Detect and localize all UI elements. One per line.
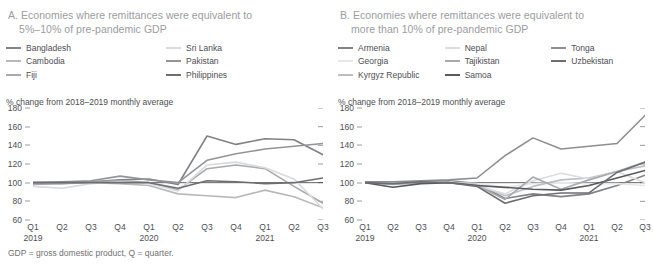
panel-a-y-axis: 1801601401201008060 (0, 108, 32, 220)
legend-item-bangladesh[interactable]: Bangladesh (6, 41, 166, 55)
legend-item-label: Uzbekistan (571, 56, 613, 66)
legend-item-fiji[interactable]: Fiji (6, 68, 166, 82)
panel-b-x-axis: Q12019Q2Q3Q4Q12020Q2Q3Q4Q12021Q2Q3 (365, 220, 645, 250)
footnote: GDP = gross domestic product, Q = quarte… (8, 248, 174, 258)
legend-item-label: Sri Lanka (186, 43, 222, 53)
x-tick-label: Q4 (443, 222, 454, 232)
x-tick-label: Q1 (583, 222, 594, 232)
legend-line-icon (6, 60, 21, 62)
series-line-sri-lanka (33, 162, 323, 209)
y-tick-label: 60 (345, 215, 354, 225)
x-year-label: 2020 (468, 233, 487, 243)
x-tick-label: Q3 (201, 222, 212, 232)
y-tick-mark (25, 201, 30, 202)
legend-panel-a: BangladeshSri LankaCambodiaPakistanFijiP… (6, 41, 326, 82)
y-tick-label: 180 (340, 103, 354, 113)
legend-line-icon (338, 47, 353, 49)
x-year-label: 2020 (140, 233, 159, 243)
panel-b-lines (365, 108, 645, 220)
x-tick-label: Q2 (387, 222, 398, 232)
legend-item-cambodia[interactable]: Cambodia (6, 55, 166, 69)
legend-item-label: Fiji (26, 70, 37, 80)
x-tick-label: Q1 (143, 222, 154, 232)
x-tick-label: Q2 (611, 222, 622, 232)
y-tick-label: 140 (8, 140, 22, 150)
legend-line-icon (338, 60, 353, 62)
y-tick-mark (25, 108, 30, 109)
legend-line-icon (445, 47, 460, 49)
panel-b-title: B. Economies where remittances were equi… (340, 8, 652, 36)
x-tick-label: Q4 (114, 222, 125, 232)
y-tick-mark (25, 145, 30, 146)
legend-item-label: Armenia (358, 43, 390, 53)
x-tick-label: Q2 (56, 222, 67, 232)
legend-item-label: Bangladesh (26, 43, 71, 53)
legend-item-samoa[interactable]: Samoa (445, 68, 552, 82)
y-tick-label: 120 (340, 159, 354, 169)
y-tick-mark (357, 126, 362, 127)
panel-b-title-line2: more than 10% of pre-pandemic GDP (340, 22, 652, 36)
x-tick-label: Q1 (27, 222, 38, 232)
legend-line-icon (166, 47, 181, 49)
y-tick-mark (357, 182, 362, 183)
panel-a-x-axis: Q12019Q2Q3Q4Q12020Q2Q3Q4Q12021Q2Q3 (33, 220, 323, 250)
legend-item-georgia[interactable]: Georgia (338, 55, 445, 69)
legend-line-icon (166, 60, 181, 62)
x-tick-label: Q1 (471, 222, 482, 232)
y-tick-mark (357, 201, 362, 202)
panel-a-title-line2: 5%–10% of pre-pandemic GDP (8, 22, 320, 36)
y-tick-mark (25, 220, 30, 221)
x-tick-label: Q1 (259, 222, 270, 232)
y-tick-mark (25, 126, 30, 127)
legend-line-icon (551, 60, 566, 62)
legend-item-label: Samoa (465, 70, 492, 80)
legend-item-label: Tajikistan (465, 56, 500, 66)
legend-item-label: Georgia (358, 56, 388, 66)
x-tick-label: Q2 (288, 222, 299, 232)
legend-item-label: Tonga (571, 43, 594, 53)
legend-line-icon (445, 74, 460, 76)
y-tick-label: 60 (13, 215, 22, 225)
legend-item-uzbekistan[interactable]: Uzbekistan (551, 55, 653, 69)
legend-item-pakistan[interactable]: Pakistan (166, 55, 326, 69)
y-tick-label: 140 (340, 140, 354, 150)
legend-item-tonga[interactable]: Tonga (551, 41, 653, 55)
legend-item-armenia[interactable]: Armenia (338, 41, 445, 55)
panel-a-title: A. Economies where remittances were equi… (8, 8, 320, 36)
x-tick-label: Q2 (172, 222, 183, 232)
y-tick-label: 80 (345, 196, 354, 206)
x-tick-label: Q3 (639, 222, 650, 232)
legend-item-label: Philippines (186, 70, 227, 80)
legend-item-label: Pakistan (186, 56, 219, 66)
panel-a-axis-note: % change from 2018–2019 monthly average (6, 97, 173, 107)
legend-line-icon (551, 47, 566, 49)
legend-item-kyrgyz-republic[interactable]: Kyrgyz Republic (338, 68, 445, 82)
legend-item-tajikistan[interactable]: Tajikistan (445, 55, 552, 69)
x-tick-label: Q4 (230, 222, 241, 232)
legend-line-icon (338, 74, 353, 76)
x-year-label: 2021 (580, 233, 599, 243)
panel-b-title-line1: B. Economies where remittances were equi… (340, 9, 584, 21)
y-tick-label: 100 (8, 178, 22, 188)
legend-line-icon (6, 74, 21, 76)
y-tick-label: 180 (8, 103, 22, 113)
legend-item-philippines[interactable]: Philippines (166, 68, 326, 82)
figure-remittances: A. Economies where remittances were equi… (0, 0, 653, 266)
legend-line-icon (445, 60, 460, 62)
series-line-tonga (365, 115, 645, 181)
panel-b: B. Economies where remittances were equi… (332, 0, 653, 248)
y-tick-mark (357, 145, 362, 146)
x-year-label: 2019 (24, 233, 43, 243)
legend-item-sri-lanka[interactable]: Sri Lanka (166, 41, 326, 55)
y-tick-mark (357, 164, 362, 165)
y-tick-mark (25, 182, 30, 183)
panel-a-plot: 1801601401201008060 Q12019Q2Q3Q4Q12020Q2… (0, 108, 332, 220)
panel-b-y-axis: 1801601401201008060 (332, 108, 364, 220)
legend-panel-b: ArmeniaNepalTongaGeorgiaTajikistanUzbeki… (338, 41, 653, 82)
panel-a-title-line1: A. Economies where remittances were equi… (8, 9, 252, 21)
legend-item-nepal[interactable]: Nepal (445, 41, 552, 55)
panel-a-lines (33, 108, 323, 220)
panel-a: A. Economies where remittances were equi… (0, 0, 332, 248)
y-tick-label: 160 (8, 122, 22, 132)
y-tick-label: 160 (340, 122, 354, 132)
